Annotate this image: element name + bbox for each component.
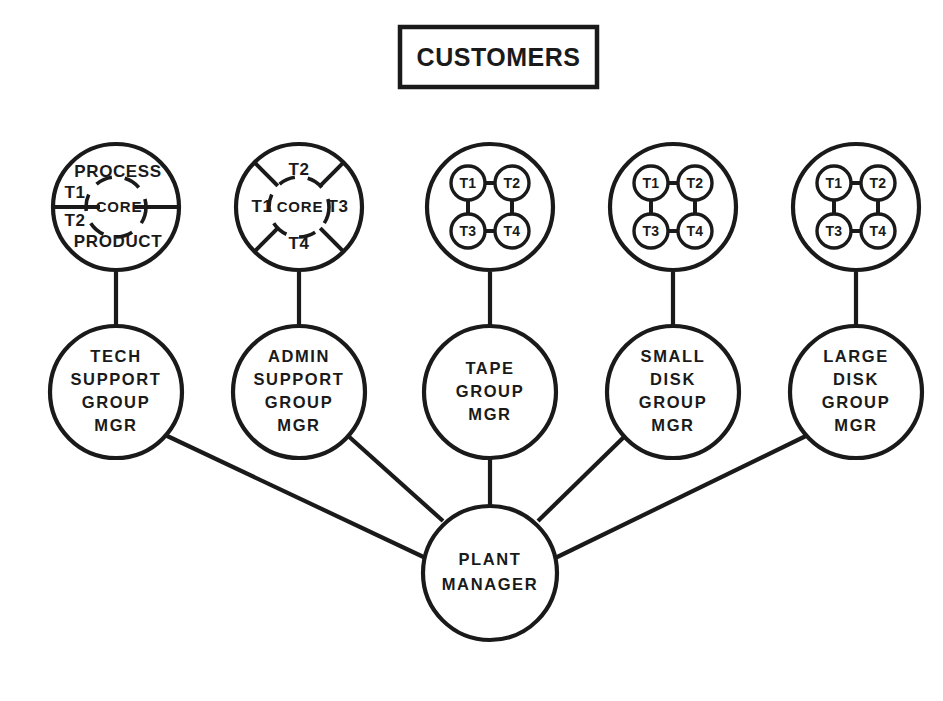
network-node-t4-label: T4 [869,223,886,239]
manager-circle [233,326,365,458]
top-node-tape-group-network[interactable]: T1 T2 T3 T4 [427,144,553,270]
plant-manager-circle [423,506,557,640]
manager-label-line-3: GROUP [82,393,151,411]
manager-circle [50,326,182,458]
network-node-t3-label: T3 [459,223,476,239]
manager-label-line-1: LARGE [823,347,889,365]
manager-label-line-4: MGR [277,416,320,434]
manager-label-line-3: GROUP [822,393,891,411]
manager-label-line-2: DISK [650,370,696,388]
manager-label-line-2: SUPPORT [71,370,162,388]
manager-label-line-1: SMALL [641,347,706,365]
network-outer-circle [610,144,736,270]
manager-label-line-2: SUPPORT [254,370,345,388]
manager-node-tech-support-group-mgr[interactable]: TECH SUPPORT GROUP MGR [50,326,182,458]
connector-small-disk-to-plant-manager [538,434,627,521]
manager-label-line-4: MGR [94,416,137,434]
sector-core-label: CORE [277,198,324,215]
network-node-t3-label: T3 [642,223,659,239]
manager-node-admin-support-group-mgr[interactable]: ADMIN SUPPORT GROUP MGR [233,326,365,458]
connector-admin-support-to-plant-manager [346,434,443,521]
model-top-label: PROCESS [74,162,161,181]
customers-title-box: CUSTOMERS [400,27,597,87]
org-diagram-canvas: CUSTOMERS PROCESS PRODUCT T1 T2 CORE [0,0,943,701]
manager-label-line-4: MGR [651,416,694,434]
manager-label-line-1: TAPE [465,359,514,377]
manager-label-line-1: TECH [90,347,141,365]
network-node-t3-label: T3 [825,223,842,239]
model-bottom-label: PRODUCT [74,232,162,251]
diagram-svg: CUSTOMERS PROCESS PRODUCT T1 T2 CORE [0,0,943,701]
model-core-label: CORE [96,198,143,215]
manager-circle [790,326,922,458]
manager-label-line-2: GROUP [456,382,525,400]
manager-label-line-4: MGR [834,416,877,434]
network-node-t1-label: T1 [825,175,842,191]
sector-left-label: T1 [251,197,272,216]
manager-label-line-1: ADMIN [268,347,330,365]
network-node-t2-label: T2 [869,175,886,191]
manager-label-line-3: MGR [468,405,511,423]
sector-bottom-label: T4 [288,234,309,253]
plant-manager-label-line-1: PLANT [459,550,522,568]
manager-label-line-2: DISK [833,370,879,388]
network-outer-circle [793,144,919,270]
top-node-tech-support-model[interactable]: PROCESS PRODUCT T1 T2 CORE [53,144,179,270]
network-node-t4-label: T4 [686,223,703,239]
top-node-small-disk-group-network[interactable]: T1 T2 T3 T4 [610,144,736,270]
manager-node-small-disk-group-mgr[interactable]: SMALL DISK GROUP MGR [607,326,739,458]
network-node-t1-label: T1 [459,175,476,191]
plant-manager-label-line-2: MANAGER [442,575,538,593]
manager-label-line-3: GROUP [639,393,708,411]
model-left-lower-label: T2 [64,211,85,230]
root-node-plant-manager[interactable]: PLANT MANAGER [423,506,557,640]
network-node-t4-label: T4 [503,223,520,239]
model-left-upper-label: T1 [64,183,85,202]
manager-node-large-disk-group-mgr[interactable]: LARGE DISK GROUP MGR [790,326,922,458]
sector-right-label: T3 [327,197,348,216]
sector-top-label: T2 [288,160,309,179]
network-node-t2-label: T2 [503,175,520,191]
manager-circle [607,326,739,458]
top-node-admin-support-model[interactable]: T2 T4 T1 T3 CORE [236,144,362,270]
manager-node-tape-group-mgr[interactable]: TAPE GROUP MGR [424,326,556,458]
title-label: CUSTOMERS [417,43,581,71]
manager-label-line-3: GROUP [265,393,334,411]
top-node-large-disk-group-network[interactable]: T1 T2 T3 T4 [793,144,919,270]
network-node-t1-label: T1 [642,175,659,191]
network-outer-circle [427,144,553,270]
network-node-t2-label: T2 [686,175,703,191]
